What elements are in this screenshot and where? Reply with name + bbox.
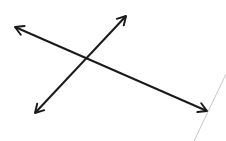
- intersecting-lines-diagram: [0, 0, 226, 141]
- line-2-double-arrow: [35, 16, 126, 113]
- line-1-double-arrow: [15, 27, 207, 111]
